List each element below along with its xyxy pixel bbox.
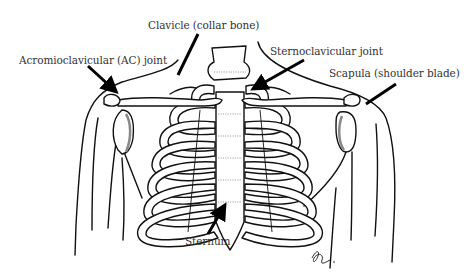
arrow-ac-joint <box>88 66 112 88</box>
cervical-vertebra <box>208 46 250 80</box>
arrow-clavicle <box>178 34 198 75</box>
label-sternum: Sternum <box>185 236 230 247</box>
anatomy-diagram: Clavicle (collar bone) Acromioclavicular… <box>0 0 464 274</box>
skeleton-drawing <box>0 0 464 274</box>
label-ac-joint: Acromioclavicular (AC) joint <box>19 55 167 66</box>
arrow-scapula <box>366 84 396 104</box>
label-sc-joint: Sternoclavicular joint <box>270 46 383 57</box>
label-clavicle: Clavicle (collar bone) <box>148 20 259 31</box>
sternum-bone <box>216 92 244 250</box>
arrow-sc-joint <box>258 60 304 86</box>
label-scapula: Scapula (shoulder blade) <box>329 68 460 79</box>
